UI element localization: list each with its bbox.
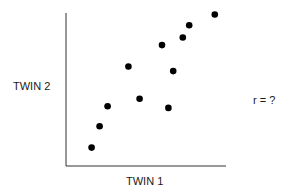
data-point xyxy=(125,63,132,70)
data-point xyxy=(88,144,95,151)
data-point xyxy=(170,68,177,75)
correlation-annotation: r = ? xyxy=(253,94,275,106)
data-point xyxy=(96,123,103,130)
data-point xyxy=(180,34,187,41)
data-point xyxy=(136,95,143,102)
x-axis-label: TWIN 1 xyxy=(126,175,163,187)
y-axis-label: TWIN 2 xyxy=(13,80,50,92)
data-points xyxy=(88,11,218,151)
data-point xyxy=(165,105,172,112)
data-point xyxy=(159,42,166,49)
data-point xyxy=(186,22,193,29)
data-point xyxy=(104,103,111,110)
data-point xyxy=(212,11,219,18)
scatter-plot xyxy=(0,0,295,193)
